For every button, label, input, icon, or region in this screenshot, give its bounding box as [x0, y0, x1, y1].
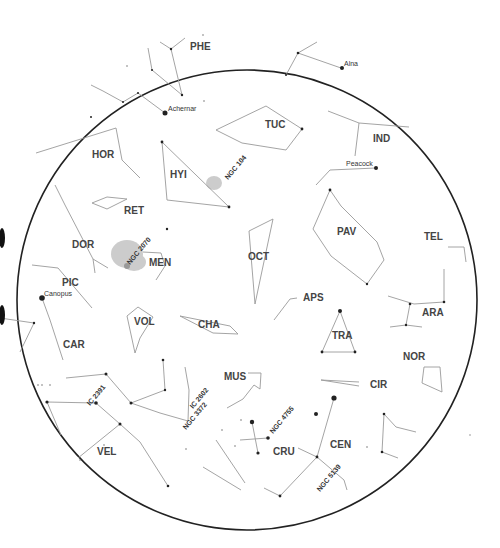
edge-artifacts [0, 228, 5, 325]
constellation-label: MUS [224, 371, 247, 382]
constellation-label: APS [303, 292, 324, 303]
star-label-achernar: Achernar [168, 105, 197, 112]
constellation-label: CIR [370, 379, 388, 390]
constellation-label: TRA [332, 330, 353, 341]
constellation-label: CAR [63, 339, 85, 350]
constellation-label: VEL [97, 446, 116, 457]
constellation-label: VOL [134, 316, 155, 327]
smc-cloud [206, 176, 222, 190]
constellation-label: PAV [337, 226, 356, 237]
constellation-label: ARA [422, 307, 444, 318]
constellation-label: OCT [248, 251, 269, 262]
constellation-label: HOR [92, 149, 115, 160]
constellation-label: TEL [424, 231, 443, 242]
constellation-label: DOR [72, 239, 95, 250]
constellation-label: IND [373, 133, 390, 144]
constellation-label: CEN [330, 439, 351, 450]
constellation-label: RET [124, 205, 144, 216]
constellation-label: CHA [198, 319, 220, 330]
star-label-peacock: Peacock [346, 160, 373, 167]
star-label-alnair: Alna [344, 60, 358, 67]
constellation-label: NOR [403, 351, 426, 362]
constellation-label: PIC [62, 277, 79, 288]
constellation-label: CRU [273, 446, 295, 457]
constellation-label: HYI [170, 169, 187, 180]
constellation-label: TUC [265, 119, 286, 130]
constellation-label: MEN [149, 257, 171, 268]
star-chart: PHE HOR HYI TUC IND RET DOR MEN PAV TEL … [0, 0, 500, 548]
constellation-label: PHE [190, 41, 211, 52]
horizon-circle [17, 70, 477, 530]
star-label-canopus: Canopus [44, 290, 73, 298]
